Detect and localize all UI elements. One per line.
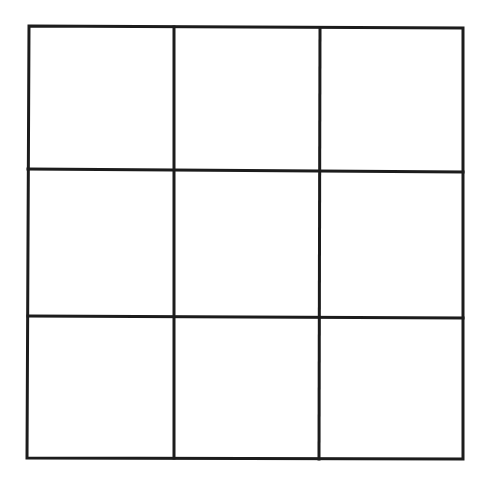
cell-mark — [31, 29, 172, 168]
cell-r2-c3[interactable] — [322, 173, 461, 315]
cell-r2-c1[interactable] — [30, 172, 172, 314]
horizontal-divider-2 — [28, 316, 463, 318]
cell-mark — [322, 173, 461, 315]
cell-r1-c1[interactable] — [31, 29, 172, 168]
cell-mark — [30, 319, 172, 456]
vertical-divider-2 — [319, 28, 320, 459]
cell-mark — [30, 172, 172, 314]
cell-r3-c1[interactable] — [30, 319, 172, 456]
cell-mark — [322, 320, 461, 457]
cell-r3-c3[interactable] — [322, 320, 461, 457]
cell-mark — [177, 319, 317, 456]
cell-mark — [177, 29, 318, 168]
cell-r1-c2[interactable] — [177, 29, 318, 168]
cell-r2-c2[interactable] — [177, 172, 318, 314]
cell-mark — [322, 30, 461, 169]
cell-mark — [177, 172, 318, 314]
cell-r1-c3[interactable] — [322, 30, 461, 169]
cell-r3-c2[interactable] — [177, 319, 317, 456]
